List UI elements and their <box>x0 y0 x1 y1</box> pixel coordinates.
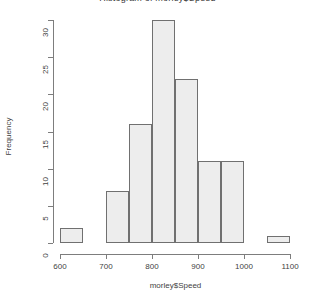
histogram-bar <box>198 161 221 243</box>
x-axis-tick-label: 700 <box>86 262 126 271</box>
chart-title: Histogram of morley$Speed <box>0 0 315 3</box>
y-axis-tick-label: 15 <box>41 130 50 158</box>
histogram-bar <box>129 124 152 243</box>
x-axis-tick <box>198 254 199 259</box>
histogram-bar <box>152 20 175 243</box>
x-axis-tick <box>60 254 61 259</box>
x-axis-line <box>60 254 291 255</box>
y-axis-tick-label: 20 <box>41 93 50 121</box>
y-axis-tick-label: 5 <box>41 204 50 232</box>
y-axis-tick-label: 30 <box>41 19 50 47</box>
x-axis-tick-label: 800 <box>132 262 172 271</box>
histogram-bar <box>106 191 129 243</box>
y-axis-title: Frequency <box>4 97 13 177</box>
x-axis-tick-label: 1000 <box>224 262 264 271</box>
y-axis-tick-label: 25 <box>41 56 50 84</box>
y-axis-tick-label: 10 <box>41 167 50 195</box>
histogram-bar <box>175 79 198 243</box>
x-axis-tick <box>152 254 153 259</box>
histogram-bar <box>221 161 244 243</box>
histogram-bar <box>60 228 83 243</box>
x-axis-tick-label: 600 <box>40 262 80 271</box>
x-axis-tick <box>106 254 107 259</box>
x-axis-tick-label: 1100 <box>270 262 310 271</box>
y-axis-line <box>53 20 54 243</box>
plot-area <box>60 20 290 243</box>
x-axis-title: morley$Speed <box>60 281 291 290</box>
x-axis-tick <box>290 254 291 259</box>
histogram-bar <box>267 236 290 243</box>
x-axis-tick-label: 900 <box>178 262 218 271</box>
histogram-figure: Histogram of morley$Speed Frequency morl… <box>0 0 315 301</box>
x-axis-tick <box>244 254 245 259</box>
